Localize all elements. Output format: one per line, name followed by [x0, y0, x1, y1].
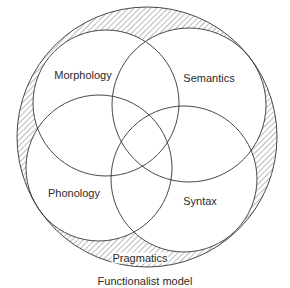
diagram-caption: Functionalist model [98, 276, 193, 287]
morphology-label: Morphology [54, 70, 111, 81]
phonology-label: Phonology [48, 188, 100, 199]
semantics-label: Semantics [183, 73, 234, 84]
pragmatics-label: Pragmatics [111, 253, 168, 264]
syntax-label: Syntax [183, 196, 217, 207]
inner-fills [26, 28, 266, 252]
venn-diagram [0, 0, 290, 288]
